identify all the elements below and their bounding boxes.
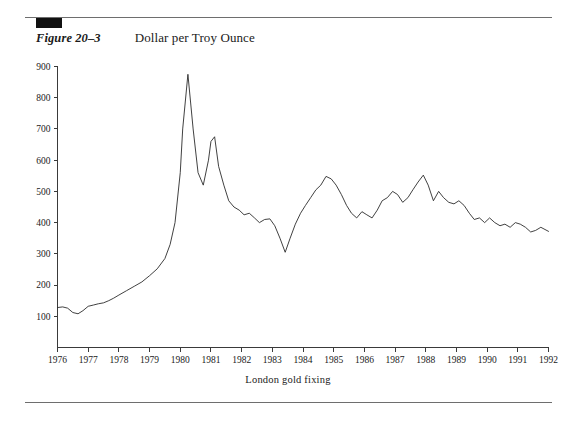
x-axis-tick-label: 1981 bbox=[201, 355, 220, 365]
x-axis-tick-label: 1977 bbox=[79, 355, 98, 365]
y-axis-tick-label: 200 bbox=[36, 280, 51, 290]
figure-root: Figure 20–3 Dollar per Troy Ounce 100200… bbox=[0, 0, 576, 423]
x-axis-tick-label: 1990 bbox=[478, 355, 497, 365]
x-axis-tick-label: 1982 bbox=[232, 355, 251, 365]
y-axis-tick-label: 300 bbox=[36, 249, 51, 259]
x-axis-tick-label: 1988 bbox=[416, 355, 435, 365]
x-axis: 1976197719781979198019811982198319841985… bbox=[48, 348, 558, 365]
x-axis-tick-label: 1991 bbox=[508, 355, 527, 365]
x-axis-tick-label: 1979 bbox=[140, 355, 159, 365]
y-axis-tick-label: 900 bbox=[36, 62, 51, 72]
y-axis-tick-label: 600 bbox=[36, 156, 51, 166]
bottom-divider-rule bbox=[25, 402, 552, 403]
y-axis-tick-label: 800 bbox=[36, 93, 51, 103]
x-axis-tick-label: 1985 bbox=[324, 355, 343, 365]
series-line-london-gold-fixing bbox=[58, 74, 549, 313]
x-axis-tick-label: 1976 bbox=[48, 355, 67, 365]
y-axis-tick-label: 100 bbox=[36, 312, 51, 322]
y-axis-tick-label: 700 bbox=[36, 124, 51, 134]
x-axis-tick-label: 1992 bbox=[539, 355, 558, 365]
plot-area: 100200300400500600700800900 197619771978… bbox=[0, 0, 576, 423]
x-axis-tick-label: 1984 bbox=[294, 355, 313, 365]
y-axis: 100200300400500600700800900 bbox=[36, 62, 57, 348]
x-axis-tick-label: 1978 bbox=[109, 355, 128, 365]
x-axis-caption: London gold fixing bbox=[0, 374, 576, 385]
x-axis-tick-label: 1983 bbox=[263, 355, 282, 365]
y-axis-tick-label: 400 bbox=[36, 218, 51, 228]
x-axis-tick-label: 1987 bbox=[386, 355, 405, 365]
x-axis-tick-label: 1986 bbox=[355, 355, 374, 365]
line-chart: 100200300400500600700800900 197619771978… bbox=[0, 0, 576, 423]
x-axis-tick-label: 1980 bbox=[171, 355, 190, 365]
x-axis-tick-label: 1989 bbox=[447, 355, 466, 365]
y-axis-tick-label: 500 bbox=[36, 187, 51, 197]
